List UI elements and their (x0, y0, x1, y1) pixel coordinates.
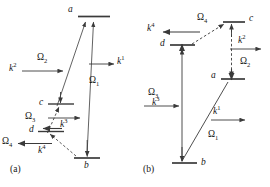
k3-label: k3 (152, 98, 159, 108)
k1-label: k1 (117, 57, 124, 67)
omega2-subscript: 2 (44, 57, 47, 64)
k3-superscript: 3 (156, 95, 159, 102)
four-wave-mixing-level-diagram: a c d b Ω2 Ω1 Ω3 Ω4 k2 k1 k3 k4 (a) (0, 0, 270, 187)
state-label-b: b (201, 158, 206, 168)
k1-label: k1 (213, 107, 220, 117)
transition-omega4-dashed (192, 24, 224, 44)
k2-superscript: 2 (13, 61, 16, 68)
omega2-symbol: Ω (240, 56, 247, 66)
k3-superscript: 3 (64, 117, 67, 124)
panel-a-caption: (a) (10, 165, 21, 175)
omega3-symbol: Ω (148, 87, 155, 97)
state-label-c: c (249, 14, 253, 24)
omega2-subscript: 2 (247, 61, 250, 68)
k2-label: k2 (9, 64, 16, 74)
omega3-label: Ω3 (25, 112, 35, 122)
omega3-subscript: 3 (32, 116, 35, 123)
omega1-subscript: 1 (215, 134, 218, 141)
transition-omega3-dashed (48, 107, 60, 133)
omega4-symbol: Ω (2, 136, 9, 146)
omega4-label: Ω4 (197, 13, 207, 23)
k4-label: k4 (38, 146, 45, 156)
state-label-a: a (211, 71, 216, 81)
omega3-symbol: Ω (25, 111, 32, 121)
panel-a-graphics (0, 0, 135, 187)
omega4-subscript: 4 (204, 17, 207, 24)
omega2-label: Ω2 (240, 57, 250, 67)
transition-omega4-dashed (50, 134, 76, 156)
omega1-label: Ω1 (89, 76, 99, 86)
k3-label: k3 (60, 120, 67, 130)
omega1-label: Ω1 (208, 130, 218, 140)
omega4-symbol: Ω (197, 12, 204, 22)
transition-omega1-line (87, 22, 94, 155)
panel-b-caption: (b) (143, 165, 154, 175)
panel-b: c d a b Ω4 Ω2 Ω3 Ω1 k4 k2 k3 k1 (b) (135, 0, 270, 187)
state-label-a: a (68, 5, 73, 15)
omega1-symbol: Ω (208, 129, 215, 139)
omega4-label: Ω4 (2, 137, 12, 147)
state-label-d: d (29, 125, 34, 135)
state-label-d: d (160, 39, 165, 49)
state-label-c: c (39, 98, 43, 108)
k4-label: k4 (147, 24, 154, 34)
transition-omega1-line (182, 82, 228, 161)
k4-superscript: 4 (42, 143, 45, 150)
omega2-symbol: Ω (37, 52, 44, 62)
k4-superscript: 4 (151, 21, 154, 28)
state-label-b: b (84, 161, 89, 171)
omega2-label: Ω2 (37, 53, 47, 63)
transition-omega2-line (57, 22, 86, 106)
k2-superscript: 2 (242, 33, 245, 40)
omega1-symbol: Ω (89, 75, 96, 85)
omega4-subscript: 4 (9, 141, 12, 148)
k1-superscript: 1 (121, 54, 124, 61)
omega1-subscript: 1 (96, 80, 99, 87)
k2-label: k2 (238, 36, 245, 46)
k1-superscript: 1 (217, 104, 220, 111)
panel-a: a c d b Ω2 Ω1 Ω3 Ω4 k2 k1 k3 k4 (a) (0, 0, 135, 187)
